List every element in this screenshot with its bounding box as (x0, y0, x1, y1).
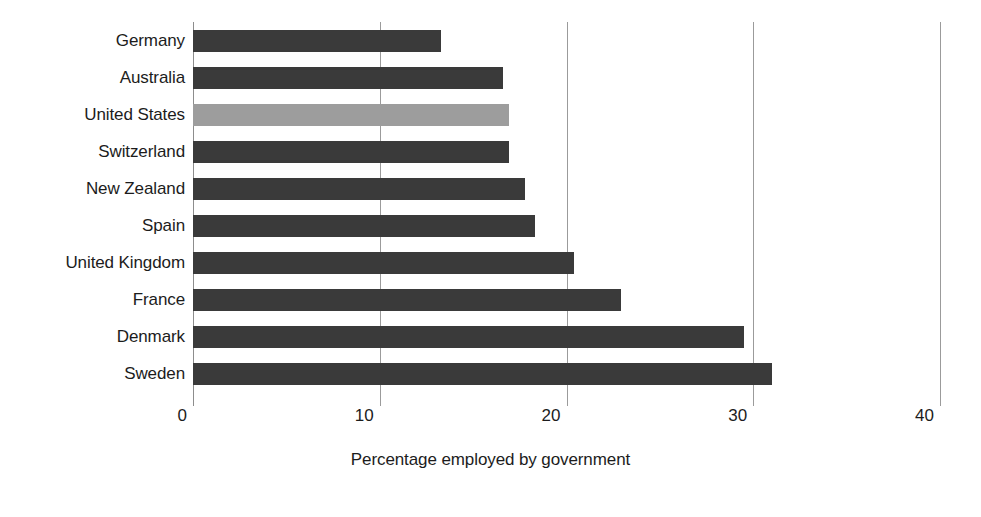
bar-spain (193, 215, 535, 237)
bar-row (193, 59, 940, 96)
plot-area (193, 22, 940, 406)
bar-france (193, 289, 621, 311)
x-axis-tick-labels: 010203040 (193, 406, 940, 430)
bar-row (193, 281, 940, 318)
bar-row (193, 244, 940, 281)
bar-row (193, 22, 940, 59)
category-label-united-states: United States (0, 105, 185, 125)
category-label-germany: Germany (0, 31, 185, 51)
bar-row (193, 96, 940, 133)
x-tick-20: 20 (542, 406, 567, 426)
x-tick-10: 10 (355, 406, 380, 426)
bar-new-zealand (193, 178, 525, 200)
bar-row (193, 318, 940, 355)
bar-row (193, 207, 940, 244)
gridline-40 (940, 22, 941, 406)
x-tick-0: 0 (178, 406, 193, 426)
bar-chart: GermanyAustraliaUnited StatesSwitzerland… (0, 0, 981, 517)
category-label-france: France (0, 290, 185, 310)
bar-row (193, 170, 940, 207)
category-axis-labels: GermanyAustraliaUnited StatesSwitzerland… (0, 22, 185, 406)
bar-row (193, 355, 940, 392)
bar-sweden (193, 363, 772, 385)
bar-australia (193, 67, 503, 89)
bars (193, 22, 940, 406)
bar-united-kingdom (193, 252, 574, 274)
bar-united-states (193, 104, 509, 126)
x-tick-40: 40 (915, 406, 940, 426)
category-label-sweden: Sweden (0, 364, 185, 384)
category-label-new-zealand: New Zealand (0, 179, 185, 199)
category-label-denmark: Denmark (0, 327, 185, 347)
bar-row (193, 133, 940, 170)
category-label-australia: Australia (0, 68, 185, 88)
bar-denmark (193, 326, 744, 348)
bar-germany (193, 30, 441, 52)
category-label-united-kingdom: United Kingdom (0, 253, 185, 273)
x-axis-title: Percentage employed by government (0, 450, 981, 470)
category-label-switzerland: Switzerland (0, 142, 185, 162)
x-tick-30: 30 (728, 406, 753, 426)
bar-switzerland (193, 141, 509, 163)
category-label-spain: Spain (0, 216, 185, 236)
